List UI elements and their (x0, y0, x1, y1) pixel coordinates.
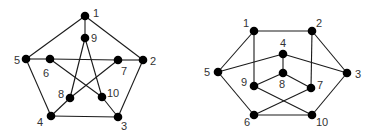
vertex-4 (47, 112, 56, 121)
vertex-label: 4 (37, 116, 43, 128)
vertex-1 (81, 12, 90, 21)
vertex-label: 1 (243, 17, 249, 29)
edge-2-3 (312, 31, 347, 73)
vertex-label: 1 (93, 7, 99, 19)
vertex-label: 3 (121, 120, 127, 132)
vertex-label: 8 (58, 88, 64, 100)
vertex-label: 6 (43, 67, 49, 79)
vertex-label: 5 (14, 54, 20, 66)
edge-1-5 (218, 31, 254, 72)
vertex-10 (98, 93, 107, 102)
vertex-label: 10 (316, 116, 328, 128)
vertex-label: 3 (355, 68, 361, 80)
edge-4-5 (218, 54, 283, 72)
vertex-label: 7 (317, 79, 323, 91)
vertex-6 (46, 55, 55, 64)
edge-9-10 (85, 38, 102, 97)
edge-5-6 (218, 72, 254, 115)
vertex-label: 8 (279, 78, 285, 90)
vertex-7 (307, 84, 316, 93)
edge-6-7 (254, 88, 311, 115)
edge-3-4 (283, 54, 347, 73)
vertex-label: 6 (244, 116, 250, 128)
vertex-8 (279, 69, 288, 78)
edge-6-7 (50, 59, 118, 60)
edge-5-1 (26, 16, 85, 59)
edge-9-8 (70, 38, 85, 98)
vertex-label: 9 (241, 76, 247, 88)
vertex-2 (308, 27, 317, 36)
vertex-4 (279, 50, 288, 59)
vertex-1 (250, 27, 259, 36)
vertex-3 (343, 69, 352, 78)
diagram-canvas: 12345678910 12345678910 (0, 0, 374, 136)
vertex-2 (139, 56, 148, 65)
right-graph: 12345678910 (204, 17, 361, 128)
vertex-9 (250, 82, 259, 91)
vertex-6 (250, 111, 259, 120)
left-graph: 12345678910 (14, 7, 156, 132)
vertex-5 (22, 55, 31, 64)
edge-3-4 (51, 116, 118, 117)
vertex-label: 2 (316, 17, 322, 29)
vertex-10 (308, 111, 317, 120)
vertex-label: 5 (204, 66, 210, 78)
edge-8-7 (283, 73, 311, 88)
vertex-label: 4 (280, 37, 286, 49)
vertex-7 (114, 56, 123, 65)
vertex-label: 7 (121, 65, 127, 77)
vertex-label: 9 (91, 32, 97, 44)
vertex-5 (214, 68, 223, 77)
vertex-8 (66, 94, 75, 103)
edge-2-7 (311, 31, 312, 88)
vertex-label: 2 (150, 55, 156, 67)
vertex-9 (81, 34, 90, 43)
vertex-label: 10 (107, 87, 119, 99)
